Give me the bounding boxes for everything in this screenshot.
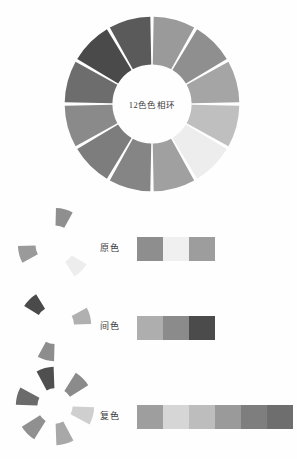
mini-segment-tertiary-4 [71, 407, 95, 425]
row-label-primary: 原色 [100, 241, 119, 254]
mini-segment-tertiary-6 [56, 422, 74, 446]
mini-wheel-tertiary [6, 357, 104, 455]
row-primary-colors: 原色 [0, 202, 297, 286]
swatch-strip-secondary [137, 316, 215, 340]
swatch-strip-tertiary [137, 405, 293, 429]
row-secondary-colors: 间色 [0, 286, 297, 358]
color-wheel-figure: 12色色相环 [0, 0, 297, 205]
swatch-strip-primary [137, 237, 215, 261]
row-label-secondary: 间色 [100, 319, 119, 332]
swatch-tertiary-1 [137, 405, 163, 429]
mini-segment-tertiary-10 [16, 388, 40, 406]
swatch-primary-2 [163, 237, 189, 261]
mini-segment-primary-5 [65, 255, 86, 276]
mini-segment-secondary-11 [24, 294, 45, 315]
mini-segment-primary-1 [56, 208, 73, 228]
swatch-tertiary-2 [163, 405, 189, 429]
row-tertiary-colors: 复色 [0, 356, 297, 459]
mini-wheel-primary [6, 205, 104, 285]
mini-segment-secondary-3 [72, 308, 91, 325]
swatch-tertiary-4 [215, 405, 241, 429]
mini-segment-tertiary-12 [37, 367, 55, 391]
swatch-secondary-2 [163, 316, 189, 340]
swatch-tertiary-3 [189, 405, 215, 429]
mini-wheel-secondary [6, 286, 104, 364]
swatch-primary-3 [189, 237, 215, 261]
swatch-secondary-1 [137, 316, 163, 340]
color-wheel-svg [62, 14, 242, 194]
row-label-tertiary: 复色 [100, 409, 119, 422]
mini-segment-tertiary-8 [22, 415, 46, 439]
swatch-tertiary-6 [267, 405, 293, 429]
swatch-tertiary-5 [241, 405, 267, 429]
mini-segment-tertiary-2 [64, 373, 88, 397]
swatch-primary-1 [137, 237, 163, 261]
swatch-secondary-3 [189, 316, 215, 340]
mini-segment-primary-9 [18, 246, 38, 263]
